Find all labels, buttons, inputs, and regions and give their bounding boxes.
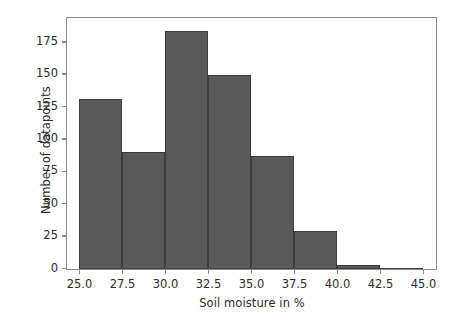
histogram-bar (380, 268, 423, 269)
x-tick-mark (380, 270, 382, 274)
x-tick-mark (423, 270, 425, 274)
y-tick-mark (62, 203, 66, 205)
plot-area (66, 17, 437, 270)
histogram-bar (122, 152, 165, 269)
histogram-bar (294, 231, 337, 269)
x-tick-mark (208, 270, 210, 274)
y-tick-mark (62, 268, 66, 270)
y-tick-label: 75 (18, 163, 58, 177)
x-axis-label: Soil moisture in % (66, 296, 438, 310)
bars-layer (67, 18, 436, 269)
histogram-figure: Number of datapoints Soil moisture in % … (0, 0, 460, 321)
y-tick-mark (62, 41, 66, 43)
histogram-bar (79, 99, 122, 269)
x-tick-label: 45.0 (393, 277, 453, 291)
x-tick-mark (165, 270, 167, 274)
y-tick-mark (62, 171, 66, 173)
histogram-bar (165, 31, 208, 269)
y-tick-label: 100 (18, 131, 58, 145)
y-tick-label: 25 (18, 228, 58, 242)
y-tick-label: 125 (18, 99, 58, 113)
x-tick-mark (122, 270, 124, 274)
x-tick-mark (251, 270, 253, 274)
y-tick-label: 0 (18, 261, 58, 275)
x-tick-mark (79, 270, 81, 274)
histogram-bar (251, 156, 294, 269)
y-tick-label: 50 (18, 196, 58, 210)
y-tick-label: 150 (18, 66, 58, 80)
y-tick-label: 175 (18, 34, 58, 48)
y-tick-mark (62, 106, 66, 108)
y-tick-mark (62, 73, 66, 75)
x-tick-mark (337, 270, 339, 274)
histogram-bar (208, 75, 251, 269)
histogram-bar (337, 265, 380, 269)
y-tick-mark (62, 138, 66, 140)
x-tick-mark (294, 270, 296, 274)
y-tick-mark (62, 235, 66, 237)
